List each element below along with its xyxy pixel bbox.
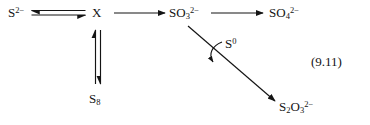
species-sulfite-charge: 2− xyxy=(190,5,199,15)
equation-number: (9.11) xyxy=(311,55,342,68)
species-elemental-sulfur: S0 xyxy=(225,37,236,50)
species-thiosulfate-base2: O xyxy=(290,99,299,114)
species-sulfide: S2− xyxy=(8,6,24,19)
arrow-elemental-sulfur-addition xyxy=(211,42,222,62)
species-sulfate: SO42− xyxy=(269,6,299,21)
reaction-scheme-figure: S2− X SO32− SO42− S8 S0 S2O32− (9.11) xyxy=(0,0,370,125)
arrow-sulfide-intermediate-equilibrium xyxy=(32,11,86,16)
species-sulfide-charge: 2− xyxy=(15,5,24,15)
species-sulfur-s8: S8 xyxy=(89,92,100,106)
species-intermediate-base: X xyxy=(92,5,101,20)
species-sulfite-base: SO xyxy=(169,5,186,20)
species-elemental-sulfur-charge: 0 xyxy=(232,36,236,46)
species-thiosulfate-charge: 2− xyxy=(304,99,313,109)
species-sulfate-charge: 2− xyxy=(290,5,299,15)
species-sulfate-base: SO xyxy=(269,5,286,20)
species-sulfur-s8-count: 8 xyxy=(96,97,100,107)
species-sulfite: SO32− xyxy=(169,6,199,21)
species-intermediate: X xyxy=(92,6,101,19)
arrow-intermediate-s8-equilibrium xyxy=(96,30,101,84)
species-thiosulfate: S2O32− xyxy=(279,100,313,115)
